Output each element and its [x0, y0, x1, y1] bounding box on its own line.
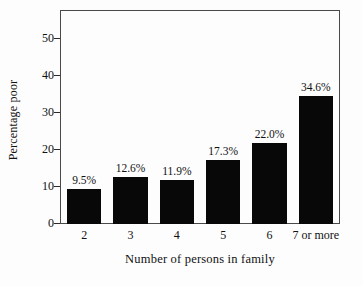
- bar-value-label: 9.5%: [61, 174, 108, 186]
- bar-value-label: 12.6%: [107, 162, 154, 174]
- bar-value-label: 34.6%: [293, 81, 340, 93]
- y-axis-tick-label: 50: [30, 32, 54, 44]
- bar-series-layer: 9.5%12.6%11.9%17.3%22.0%34.6%: [61, 11, 339, 224]
- bar: [299, 96, 334, 224]
- bar: [252, 143, 287, 224]
- x-axis-tick-label: 7 or more: [286, 228, 346, 242]
- y-axis-tick-mark: [54, 186, 60, 187]
- y-axis-tick-mark: [54, 75, 60, 76]
- y-axis-tick-label: 20: [30, 143, 54, 155]
- y-axis-title: Percentage poor: [2, 8, 24, 232]
- bar-value-label: 17.3%: [200, 145, 247, 157]
- y-axis-tick-mark: [54, 38, 60, 39]
- y-axis-tick-label: 10: [30, 180, 54, 192]
- bar: [113, 177, 148, 224]
- bar: [67, 189, 102, 224]
- bar-value-label: 22.0%: [246, 128, 293, 140]
- y-axis-tick-label: 40: [30, 69, 54, 81]
- bar: [160, 180, 195, 224]
- bar: [206, 160, 241, 224]
- y-axis-tick-mark: [54, 112, 60, 113]
- y-axis-tick-mark: [54, 223, 60, 224]
- y-axis-tick-label-group: 01020304050: [28, 0, 54, 286]
- bar-value-label: 11.9%: [154, 165, 201, 177]
- x-axis-title: Number of persons in family: [60, 252, 340, 267]
- y-axis-tick-mark: [54, 149, 60, 150]
- bar-chart-figure: Percentage poor 01020304050 9.5%12.6%11.…: [0, 0, 363, 286]
- y-axis-tick-label: 0: [30, 217, 54, 229]
- y-axis-tick-label: 30: [30, 106, 54, 118]
- x-axis-tick-label-group: 234567 or more: [61, 228, 339, 246]
